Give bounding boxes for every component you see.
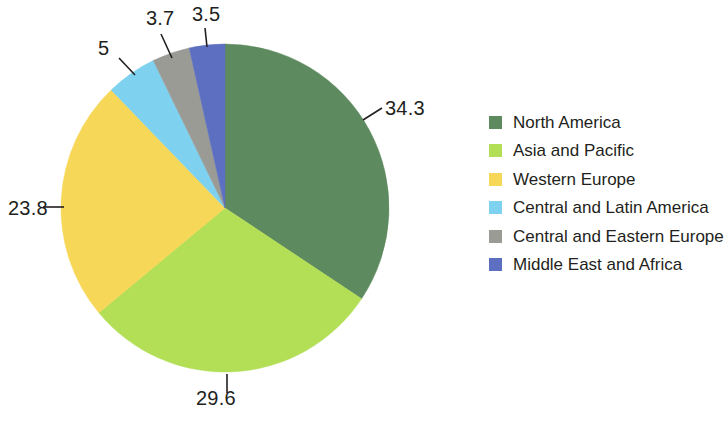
legend-swatch-icon bbox=[489, 230, 502, 243]
legend-swatch-icon bbox=[489, 144, 502, 157]
leader-line-north-america bbox=[363, 108, 382, 120]
slice-value-label-middle-east-and-africa: 3.5 bbox=[192, 4, 220, 24]
legend-item-label: Middle East and Africa bbox=[513, 256, 682, 273]
slice-value-label-western-europe: 23.8 bbox=[8, 198, 48, 218]
legend-item-middle-east-and-africa: Middle East and Africa bbox=[489, 251, 704, 280]
legend-item-label: Central and Eastern Europe bbox=[513, 228, 724, 245]
slice-value-label-central-and-eastern-europe: 3.7 bbox=[146, 8, 174, 28]
legend-swatch-icon bbox=[489, 201, 502, 214]
leader-line-middle-east bbox=[205, 28, 207, 47]
slice-value-label-central-and-latin-america: 5 bbox=[98, 38, 109, 58]
legend-item-label: Central and Latin America bbox=[513, 199, 709, 216]
legend-swatch-icon bbox=[489, 173, 502, 186]
chart-legend: North AmericaAsia and PacificWestern Eur… bbox=[489, 108, 704, 279]
slice-value-label-north-america: 34.3 bbox=[385, 98, 425, 118]
legend-item-asia-and-pacific: Asia and Pacific bbox=[489, 137, 704, 166]
legend-swatch-icon bbox=[489, 116, 502, 129]
slice-value-label-asia-pacific: 29.6 bbox=[196, 388, 236, 408]
pie-plot-area: 34.3 29.6 23.8 5 3.7 3.5 bbox=[0, 0, 470, 427]
legend-item-central-and-eastern-europe: Central and Eastern Europe bbox=[489, 222, 704, 251]
legend-swatch-icon bbox=[489, 258, 502, 271]
leader-line-central-eastern bbox=[161, 34, 172, 58]
legend-item-label: North America bbox=[513, 114, 621, 131]
pie-slice-group bbox=[61, 44, 389, 372]
legend-item-north-america: North America bbox=[489, 108, 704, 137]
legend-item-central-and-latin-america: Central and Latin America bbox=[489, 194, 704, 223]
legend-item-label: Asia and Pacific bbox=[513, 142, 634, 159]
legend-item-western-europe: Western Europe bbox=[489, 165, 704, 194]
pie-svg bbox=[0, 0, 470, 427]
legend-item-label: Western Europe bbox=[513, 171, 636, 188]
leader-line-central-latin bbox=[119, 58, 135, 75]
